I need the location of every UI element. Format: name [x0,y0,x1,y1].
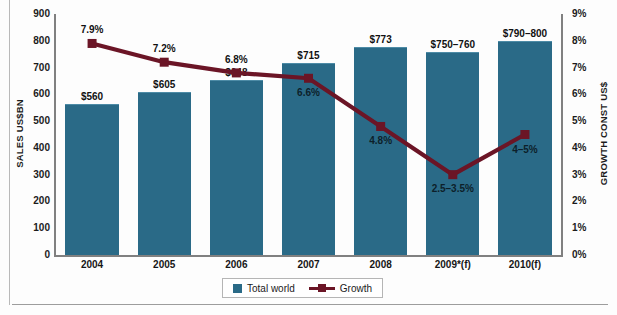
growth-line-path [92,43,525,174]
axis-spine-right [561,14,563,256]
growth-marker-2004[interactable] [88,39,97,48]
x-category-label-2008: 2008 [370,259,392,270]
y-tick-left-600: 600 [33,89,50,99]
x-category-label-2009*(f): 2009*(f) [435,259,471,270]
growth-marker-2006[interactable] [232,68,241,77]
y-tick-right-0pct: 0% [572,250,586,260]
y-tick-right-1pct: 1% [572,223,586,233]
y-tick-right-8pct: 8% [572,36,586,46]
y-tick-left-100: 100 [33,223,50,233]
growth-marker-2010(f)[interactable] [520,130,529,139]
y-tick-right-6pct: 6% [572,89,586,99]
growth-value-label-2010(f): 4–5% [512,144,538,155]
sales-and-growth-chart: SALES US$BN GROWTH CONST US$ 90080070060… [0,0,617,315]
growth-marker-2008[interactable] [376,122,385,131]
legend-label-growth: Growth [340,283,372,294]
growth-marker-2005[interactable] [160,58,169,67]
legend-item-growth: Growth [309,283,372,294]
growth-value-label-2009*(f): 2.5–3.5% [432,183,474,194]
x-category-label-2004: 2004 [81,259,103,270]
y-tick-right-9pct: 9% [572,9,586,19]
growth-value-label-2004: 7.9% [81,24,104,35]
growth-value-label-2008: 4.8% [369,135,392,146]
growth-value-label-2007: 6.6% [297,87,320,98]
x-category-label-2007: 2007 [297,259,319,270]
y-tick-left-700: 700 [33,63,50,73]
legend-label-total-world: Total world [247,283,295,294]
y-tick-right-7pct: 7% [572,63,586,73]
y-tick-right-4pct: 4% [572,143,586,153]
y-tick-right-5pct: 5% [572,116,586,126]
y-tick-left-800: 800 [33,36,50,46]
bar-swatch-icon [233,284,242,293]
y-tick-right-3pct: 3% [572,170,586,180]
growth-value-label-2006: 6.8% [225,54,248,65]
y-tick-left-0: 0 [44,250,50,260]
growth-marker-2009*(f)[interactable] [448,170,457,179]
y-tick-left-400: 400 [33,143,50,153]
plot-area: $560$605$648$715$773$750–760$790–800 7.9… [56,14,561,255]
axis-spine-bottom [54,255,563,257]
x-axis-category-labels: 200420052006200720082009*(f)2010(f) [56,259,561,275]
growth-line-series [56,14,561,255]
y-axis-left-ticks: 9008007006005004003002001000 [18,14,50,254]
y-tick-right-2pct: 2% [572,196,586,206]
growth-value-label-2005: 7.2% [153,43,176,54]
y-tick-left-300: 300 [33,170,50,180]
line-marker-icon [309,284,335,293]
x-category-label-2005: 2005 [153,259,175,270]
x-category-label-2006: 2006 [225,259,247,270]
y-axis-right-ticks: 9%8%7%6%5%4%3%2%1%0% [572,14,600,254]
growth-marker-2007[interactable] [304,74,313,83]
chart-legend: Total world Growth [222,278,383,298]
y-tick-left-200: 200 [33,196,50,206]
x-category-label-2010(f): 2010(f) [509,259,541,270]
y-tick-left-500: 500 [33,116,50,126]
y-tick-left-900: 900 [33,9,50,19]
legend-item-total-world: Total world [233,283,295,294]
